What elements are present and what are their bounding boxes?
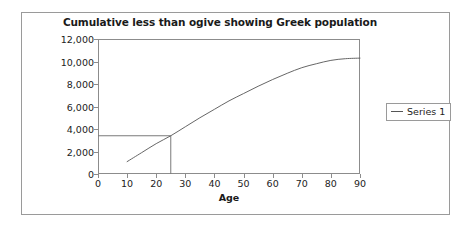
x-tick-label: 40	[199, 178, 229, 189]
y-tick-label: 8,000	[40, 79, 94, 90]
y-tick-label: 6,000	[40, 101, 94, 112]
y-axis-tick-labels: 02,0004,0006,0008,00010,00012,000	[38, 39, 94, 174]
plot-area	[98, 39, 360, 174]
x-tick-label: 30	[170, 178, 200, 189]
chart-legend[interactable]: Series 1	[386, 103, 451, 121]
x-tick-label: 80	[316, 178, 346, 189]
legend-item-label: Series 1	[407, 106, 445, 117]
x-tick-label: 50	[229, 178, 259, 189]
series-line-series-1	[127, 58, 360, 162]
chart-title: Cumulative less than ogive showing Greek…	[40, 16, 400, 28]
y-tick-label: 4,000	[40, 124, 94, 135]
x-tick-label: 20	[141, 178, 171, 189]
y-tick-label: 12,000	[40, 34, 94, 45]
x-tick-label: 70	[287, 178, 317, 189]
x-tick-label: 0	[83, 178, 113, 189]
line-marker-icon	[391, 111, 403, 112]
y-tick-label: 2,000	[40, 146, 94, 157]
x-tick-label: 10	[112, 178, 142, 189]
y-tick-label: 10,000	[40, 56, 94, 67]
chart-figure: Cumulative less than ogive showing Greek…	[0, 0, 472, 232]
x-tick-label: 60	[258, 178, 288, 189]
plot-canvas	[98, 39, 360, 174]
x-tick-label: 90	[345, 178, 375, 189]
x-axis-title: Age	[98, 192, 360, 203]
x-axis-tick-labels: 0102030405060708090	[98, 178, 360, 192]
